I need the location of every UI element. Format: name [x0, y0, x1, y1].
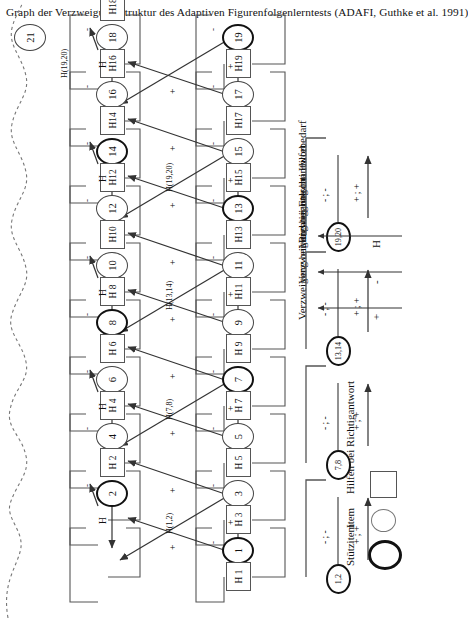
graph-rotated-group: 1 2 3 4 5 6 7 8 9 10 11 12 13 14 15 16 1…: [0, 0, 420, 624]
figure-canvas: Graph der Verzweigungsstruktur des Adapt…: [0, 0, 420, 624]
legend-arrow-layer: [0, 0, 420, 624]
